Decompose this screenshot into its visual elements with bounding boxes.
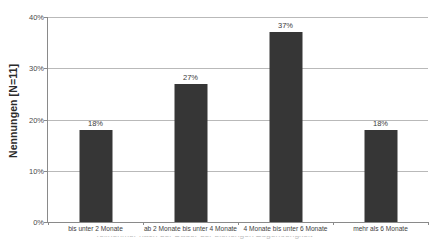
y-tick-label-30: 30%	[0, 64, 44, 73]
clipped-caption-text: Teilnehmer nach der Dauer der bisherigen…	[95, 236, 312, 239]
y-tick-label-0: 0%	[0, 218, 44, 227]
y-tick-label-40: 40%	[0, 13, 44, 22]
bar-chart: Nennungen [N=11] 40% 30% 20% 10% 0% 18% …	[0, 0, 438, 245]
bar-value-label-4: 18%	[373, 119, 388, 128]
y-tick-mark-20	[44, 120, 47, 121]
bar-band-3: 37%	[238, 17, 333, 222]
y-tick-label-10: 10%	[0, 166, 44, 175]
x-tick-4	[428, 222, 429, 225]
bar-band-2: 27%	[143, 17, 238, 222]
bar-4[interactable]	[364, 130, 397, 222]
x-axis-label-3: 4 Monate bis unter 6 Monate	[238, 224, 333, 234]
bar-value-label-2: 27%	[183, 73, 198, 82]
clipped-caption: Teilnehmer nach der Dauer der bisherigen…	[0, 236, 438, 245]
x-axis-label-2: ab 2 Monate bis unter 4 Monate	[143, 224, 238, 234]
plot-area: 18% 27% 37% 18%	[48, 17, 428, 222]
bar-2[interactable]	[174, 84, 207, 222]
x-axis-label-1: bis unter 2 Monate	[48, 224, 143, 234]
bar-band-4: 18%	[333, 17, 428, 222]
y-tick-mark-0	[44, 222, 47, 223]
x-axis-label-4: mehr als 6 Monate	[333, 224, 428, 234]
bar-value-label-1: 18%	[88, 119, 103, 128]
bar-3[interactable]	[269, 32, 302, 222]
y-axis-ticks: 40% 30% 20% 10% 0%	[0, 17, 44, 222]
bar-1[interactable]	[79, 130, 112, 222]
y-tick-mark-40	[44, 17, 47, 18]
y-tick-label-20: 20%	[0, 115, 44, 124]
y-tick-mark-30	[44, 68, 47, 69]
bar-value-label-3: 37%	[278, 21, 293, 30]
bar-band-1: 18%	[48, 17, 143, 222]
x-axis-labels: bis unter 2 Monate ab 2 Monate bis unter…	[48, 224, 428, 234]
bar-series: 18% 27% 37% 18%	[48, 17, 428, 222]
y-tick-mark-10	[44, 171, 47, 172]
